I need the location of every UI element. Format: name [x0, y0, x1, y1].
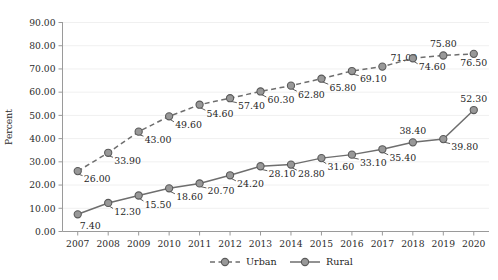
line-chart: 0.0010.0020.0030.0040.0050.0060.0070.008…: [0, 0, 498, 280]
data-point-label-urban-2008: 33.90: [114, 155, 141, 166]
data-point-label-urban-2012: 57.40: [238, 100, 265, 111]
data-point-marker-urban-2013[interactable]: [257, 88, 264, 95]
data-point-label-rural-2015: 31.60: [327, 161, 354, 172]
data-point-label-urban-2014: 62.80: [298, 89, 325, 100]
y-axis-tick-label: 60.00: [29, 86, 55, 97]
data-point-marker-urban-2009[interactable]: [135, 128, 142, 135]
data-point-marker-rural-2017[interactable]: [379, 146, 386, 153]
data-point-marker-urban-2016[interactable]: [348, 67, 355, 74]
x-axis-tick-label: 2015: [310, 238, 334, 249]
x-axis-tick-label: 2010: [157, 238, 181, 249]
data-point-marker-urban-2020[interactable]: [470, 50, 477, 57]
x-axis-tick-label: 2019: [432, 238, 456, 249]
data-point-marker-rural-2010[interactable]: [166, 185, 173, 192]
legend-label-urban[interactable]: Urban: [246, 256, 277, 267]
x-axis-tick-label: 2014: [279, 238, 303, 249]
y-axis-tick-label: 40.00: [29, 133, 55, 144]
data-point-marker-urban-2012[interactable]: [226, 95, 233, 102]
x-axis-tick-label: 2018: [401, 238, 425, 249]
data-point-marker-rural-2013[interactable]: [257, 163, 264, 170]
data-point-label-urban-2018: 74.60: [419, 61, 446, 72]
y-axis-tick-label: 30.00: [29, 156, 55, 167]
data-point-marker-urban-2017[interactable]: [379, 63, 386, 70]
data-point-label-rural-2014: 28.80: [298, 168, 325, 179]
data-point-label-urban-2009: 43.00: [145, 134, 172, 145]
data-point-label-urban-2019: 75.80: [430, 38, 457, 49]
y-axis-tick-label: 20.00: [29, 179, 55, 190]
data-point-marker-rural-2019[interactable]: [440, 135, 447, 142]
data-point-marker-urban-2014[interactable]: [287, 82, 294, 89]
data-point-marker-urban-2019[interactable]: [440, 52, 447, 59]
x-axis-tick-label: 2016: [340, 238, 364, 249]
data-point-label-urban-2015: 65.80: [329, 82, 356, 93]
data-point-label-rural-2010: 18.60: [176, 191, 203, 202]
data-point-label-rural-2008: 12.30: [114, 206, 141, 217]
data-point-label-rural-2007: 7.40: [80, 220, 101, 231]
data-point-marker-rural-2014[interactable]: [287, 161, 294, 168]
data-point-label-urban-2013: 60.30: [268, 94, 295, 105]
data-point-marker-urban-2018[interactable]: [409, 55, 416, 62]
data-point-marker-rural-2008[interactable]: [105, 199, 112, 206]
data-point-marker-rural-2016[interactable]: [348, 151, 355, 158]
x-axis-tick-label: 2009: [127, 238, 151, 249]
y-axis-tick-label: 70.00: [29, 63, 55, 74]
data-point-marker-rural-2009[interactable]: [135, 192, 142, 199]
data-point-label-rural-2018: 38.40: [399, 125, 426, 136]
x-axis-tick-label: 2020: [462, 238, 486, 249]
data-point-marker-urban-2007[interactable]: [74, 168, 81, 175]
y-axis-tick-label: 80.00: [29, 40, 55, 51]
data-point-marker-rural-2007[interactable]: [74, 211, 81, 218]
y-axis-tick-label: 0.00: [35, 226, 56, 237]
data-point-label-urban-2010: 49.60: [175, 119, 202, 130]
x-axis-tick-label: 2017: [371, 238, 395, 249]
legend-marker-rural: [301, 258, 308, 265]
data-point-marker-urban-2010[interactable]: [166, 113, 173, 120]
data-point-label-rural-2020: 52.30: [460, 93, 487, 104]
data-point-label-rural-2012: 24.20: [237, 178, 264, 189]
y-axis-tick-label: 90.00: [29, 17, 55, 28]
legend-marker-urban: [221, 258, 228, 265]
data-point-marker-urban-2008[interactable]: [105, 149, 112, 156]
data-point-marker-rural-2012[interactable]: [226, 172, 233, 179]
x-axis-tick-label: 2007: [66, 238, 90, 249]
chart-container: 0.0010.0020.0030.0040.0050.0060.0070.008…: [0, 0, 498, 280]
data-point-marker-rural-2011[interactable]: [196, 180, 203, 187]
data-point-label-urban-2007: 26.00: [84, 173, 111, 184]
data-point-label-rural-2016: 33.10: [360, 157, 387, 168]
data-point-label-urban-2011: 54.60: [207, 108, 234, 119]
data-point-label-rural-2013: 28.10: [269, 168, 296, 179]
data-point-label-urban-2020: 76.50: [460, 57, 487, 68]
x-axis-tick-label: 2008: [97, 238, 121, 249]
data-point-label-rural-2019: 39.80: [451, 141, 478, 152]
data-point-marker-rural-2018[interactable]: [409, 139, 416, 146]
y-axis-title: Percent: [3, 109, 14, 145]
x-axis-tick-label: 2011: [188, 238, 211, 249]
x-axis-tick-label: 2013: [249, 238, 273, 249]
data-point-marker-rural-2020[interactable]: [470, 106, 477, 113]
data-point-label-urban-2016: 69.10: [360, 73, 387, 84]
data-point-label-rural-2017: 35.40: [389, 152, 416, 163]
y-axis-tick-label: 50.00: [29, 110, 55, 121]
data-point-marker-urban-2015[interactable]: [318, 75, 325, 82]
data-point-label-rural-2011: 20.70: [208, 185, 235, 196]
data-point-label-rural-2009: 15.50: [145, 199, 172, 210]
y-axis-tick-label: 10.00: [29, 203, 55, 214]
x-axis-tick-label: 2012: [218, 238, 241, 249]
legend-label-rural[interactable]: Rural: [326, 256, 353, 267]
data-point-marker-urban-2011[interactable]: [196, 101, 203, 108]
data-point-marker-rural-2015[interactable]: [318, 155, 325, 162]
